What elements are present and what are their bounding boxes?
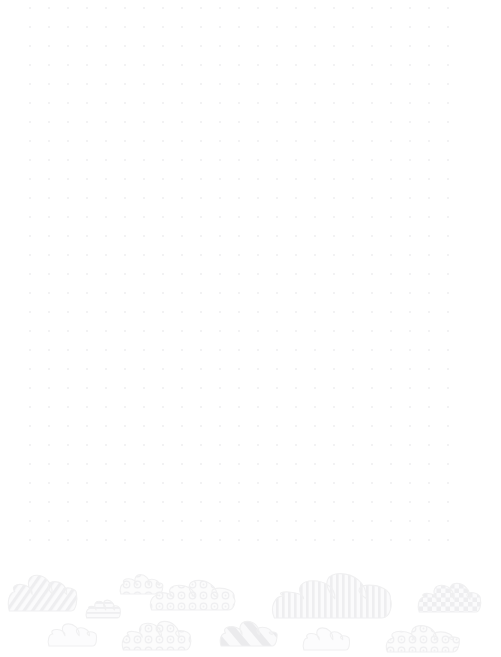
grid-dot xyxy=(390,368,392,370)
cloud-bubble-lower-right xyxy=(386,626,459,652)
grid-dot xyxy=(333,64,335,66)
grid-dot xyxy=(314,102,316,104)
grid-dot xyxy=(371,539,373,541)
grid-dot xyxy=(105,83,107,85)
grid-dot xyxy=(257,368,259,370)
grid-dot xyxy=(105,121,107,123)
grid-dot xyxy=(390,45,392,47)
grid-dot xyxy=(124,482,126,484)
grid-dot xyxy=(314,311,316,313)
grid-dot xyxy=(86,425,88,427)
grid-dot xyxy=(257,482,259,484)
grid-dot xyxy=(29,311,31,313)
grid-dot xyxy=(390,539,392,541)
grid-dot xyxy=(48,178,50,180)
grid-dot xyxy=(276,406,278,408)
grid-dot xyxy=(48,26,50,28)
grid-dot xyxy=(428,26,430,28)
grid-dot xyxy=(219,216,221,218)
grid-dot xyxy=(124,368,126,370)
grid-dot xyxy=(219,140,221,142)
grid-dot xyxy=(29,501,31,503)
grid-dot xyxy=(352,64,354,66)
grid-dot xyxy=(238,45,240,47)
grid-dot xyxy=(48,311,50,313)
grid-dot xyxy=(181,216,183,218)
grid-dot xyxy=(314,539,316,541)
grid-dot xyxy=(200,501,202,503)
grid-dot xyxy=(409,45,411,47)
dot-grid-dots xyxy=(29,7,449,541)
grid-dot xyxy=(276,330,278,332)
grid-dot xyxy=(371,292,373,294)
cloud-checker-right-shape xyxy=(418,583,480,612)
grid-dot xyxy=(86,216,88,218)
grid-dot xyxy=(238,26,240,28)
grid-dot xyxy=(67,102,69,104)
grid-dot xyxy=(219,254,221,256)
grid-dot xyxy=(257,501,259,503)
grid-dot xyxy=(124,197,126,199)
grid-dot xyxy=(314,178,316,180)
grid-dot xyxy=(143,159,145,161)
grid-dot xyxy=(333,216,335,218)
grid-dot xyxy=(29,64,31,66)
grid-dot xyxy=(219,121,221,123)
grid-dot xyxy=(162,463,164,465)
grid-dot xyxy=(124,330,126,332)
grid-dot xyxy=(105,197,107,199)
grid-dot xyxy=(29,444,31,446)
grid-dot xyxy=(67,330,69,332)
grid-dot xyxy=(409,140,411,142)
grid-dot xyxy=(314,64,316,66)
grid-dot xyxy=(238,501,240,503)
grid-dot xyxy=(48,273,50,275)
grid-dot xyxy=(238,425,240,427)
grid-dot xyxy=(428,121,430,123)
grid-dot xyxy=(143,501,145,503)
grid-dot xyxy=(352,121,354,123)
grid-dot xyxy=(409,197,411,199)
grid-dot xyxy=(390,463,392,465)
grid-dot xyxy=(371,216,373,218)
grid-dot xyxy=(105,520,107,522)
grid-dot xyxy=(447,254,449,256)
grid-dot xyxy=(257,140,259,142)
grid-dot xyxy=(276,539,278,541)
grid-dot xyxy=(371,368,373,370)
grid-dot xyxy=(447,121,449,123)
grid-dot xyxy=(219,349,221,351)
grid-dot xyxy=(333,178,335,180)
grid-dot xyxy=(371,349,373,351)
grid-dot xyxy=(219,463,221,465)
grid-dot xyxy=(143,216,145,218)
grid-dot xyxy=(428,425,430,427)
grid-dot xyxy=(428,197,430,199)
grid-dot xyxy=(200,26,202,28)
grid-dot xyxy=(276,482,278,484)
grid-dot xyxy=(257,197,259,199)
grid-dot xyxy=(162,140,164,142)
grid-dot xyxy=(200,273,202,275)
grid-dot xyxy=(105,463,107,465)
grid-dot xyxy=(352,330,354,332)
grid-dot xyxy=(314,26,316,28)
grid-dot xyxy=(428,520,430,522)
grid-dot xyxy=(352,159,354,161)
grid-dot xyxy=(257,463,259,465)
grid-dot xyxy=(86,254,88,256)
grid-dot xyxy=(143,197,145,199)
grid-dot xyxy=(447,140,449,142)
grid-dot xyxy=(257,45,259,47)
grid-dot xyxy=(200,539,202,541)
grid-dot xyxy=(276,159,278,161)
grid-dot xyxy=(162,26,164,28)
grid-dot xyxy=(105,292,107,294)
grid-dot xyxy=(257,406,259,408)
grid-dot xyxy=(105,539,107,541)
grid-dot xyxy=(124,539,126,541)
grid-dot xyxy=(371,406,373,408)
grid-dot xyxy=(124,387,126,389)
grid-dot xyxy=(67,26,69,28)
grid-dot xyxy=(428,349,430,351)
